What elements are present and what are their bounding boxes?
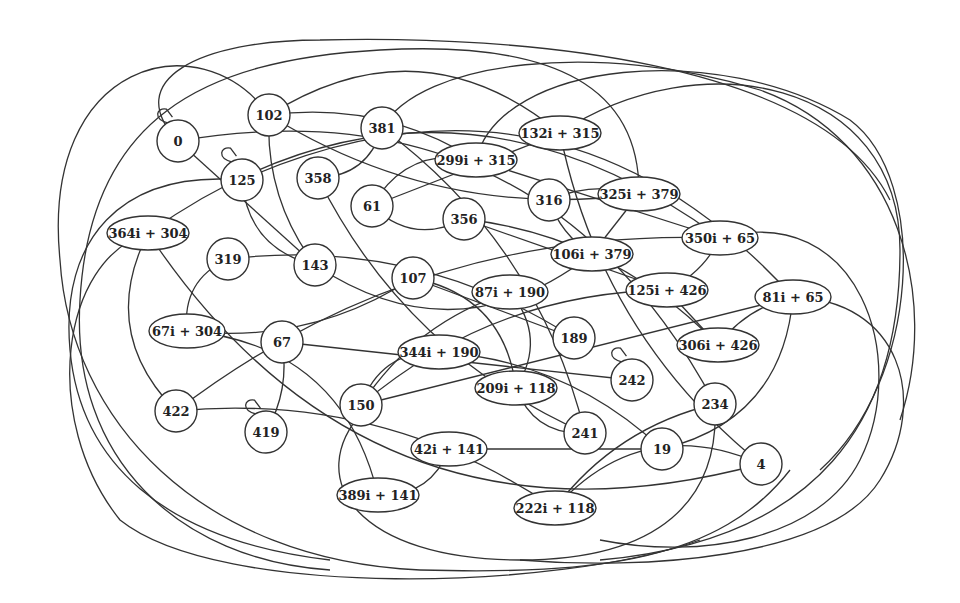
node-87i-190[interactable]: 87i + 190 [472, 275, 548, 309]
node-325i-379[interactable]: 325i + 379 [598, 177, 680, 211]
node-106i-379[interactable]: 106i + 379 [551, 237, 633, 271]
edge-143-106i-379 [315, 254, 592, 310]
node-label: 19 [653, 442, 671, 457]
node-189[interactable]: 189 [553, 317, 595, 359]
node-label: 67 [273, 335, 291, 350]
node-label: 61 [363, 199, 381, 214]
node-299i-315[interactable]: 299i + 315 [435, 143, 517, 177]
node-label: 234 [701, 397, 728, 412]
node-label: 4 [756, 457, 765, 472]
node-241[interactable]: 241 [564, 412, 606, 454]
edge-81i-65-19 [662, 297, 793, 449]
edge-102-132i-315 [269, 71, 560, 133]
node-306i-426[interactable]: 306i + 426 [677, 328, 759, 362]
node-label: 106i + 379 [552, 247, 631, 262]
node-143[interactable]: 143 [294, 244, 336, 286]
node-label: 125 [228, 173, 255, 188]
node-label: 242 [618, 373, 645, 388]
node-356[interactable]: 356 [443, 198, 485, 240]
nodes-layer: 010238112535861132i + 315299i + 31531632… [107, 94, 831, 525]
node-67i-304[interactable]: 67i + 304 [149, 314, 225, 348]
node-61[interactable]: 61 [351, 185, 393, 227]
node-222i-118[interactable]: 222i + 118 [514, 491, 596, 525]
node-0[interactable]: 0 [157, 109, 199, 162]
node-350i-65[interactable]: 350i + 65 [682, 221, 758, 255]
node-label: 356 [450, 212, 477, 227]
node-label: 209i + 118 [476, 381, 555, 396]
node-422[interactable]: 422 [155, 390, 197, 432]
node-label: 107 [399, 271, 426, 286]
node-344i-190[interactable]: 344i + 190 [398, 335, 480, 369]
node-label: 222i + 118 [515, 501, 594, 516]
node-label: 350i + 65 [685, 231, 755, 246]
node-label: 325i + 379 [599, 187, 678, 202]
node-316[interactable]: 316 [528, 179, 570, 221]
node-42i-141[interactable]: 42i + 141 [411, 432, 487, 466]
graph-canvas: 010238112535861132i + 315299i + 31531632… [0, 0, 960, 603]
node-319[interactable]: 319 [207, 238, 249, 280]
node-358[interactable]: 358 [297, 157, 339, 199]
node-label: 299i + 315 [436, 153, 515, 168]
node-102[interactable]: 102 [248, 94, 290, 136]
node-364i-304[interactable]: 364i + 304 [107, 216, 189, 250]
node-label: 81i + 65 [762, 290, 823, 305]
node-150[interactable]: 150 [340, 384, 382, 426]
node-67[interactable]: 67 [261, 321, 303, 363]
node-label: 132i + 315 [520, 126, 599, 141]
node-242[interactable]: 242 [611, 348, 653, 401]
node-125i-426[interactable]: 125i + 426 [626, 273, 708, 307]
node-label: 381 [368, 121, 395, 136]
node-234[interactable]: 234 [694, 383, 736, 425]
node-125[interactable]: 125 [221, 148, 263, 201]
node-label: 319 [214, 252, 241, 267]
node-label: 389i + 141 [338, 488, 417, 503]
node-label: 189 [560, 331, 587, 346]
node-label: 102 [255, 108, 282, 123]
node-label: 364i + 304 [108, 226, 187, 241]
node-19[interactable]: 19 [641, 428, 683, 470]
node-209i-118[interactable]: 209i + 118 [475, 371, 557, 405]
node-label: 358 [304, 171, 331, 186]
node-label: 150 [347, 398, 374, 413]
edge-299i-315-350i-65 [476, 160, 720, 238]
node-label: 344i + 190 [399, 345, 478, 360]
node-label: 306i + 426 [678, 338, 757, 353]
node-389i-141[interactable]: 389i + 141 [337, 478, 419, 512]
node-label: 67i + 304 [152, 324, 222, 339]
node-label: 87i + 190 [475, 285, 545, 300]
node-label: 316 [535, 193, 562, 208]
node-4[interactable]: 4 [740, 443, 782, 485]
node-label: 42i + 141 [414, 442, 484, 457]
node-label: 125i + 426 [627, 283, 706, 298]
node-132i-315[interactable]: 132i + 315 [519, 116, 601, 150]
node-label: 0 [173, 134, 182, 149]
node-81i-65[interactable]: 81i + 65 [755, 280, 831, 314]
node-381[interactable]: 381 [361, 107, 403, 149]
node-label: 419 [252, 425, 279, 440]
node-107[interactable]: 107 [392, 257, 434, 299]
node-label: 143 [301, 258, 328, 273]
node-label: 422 [162, 404, 189, 419]
node-label: 241 [571, 426, 598, 441]
